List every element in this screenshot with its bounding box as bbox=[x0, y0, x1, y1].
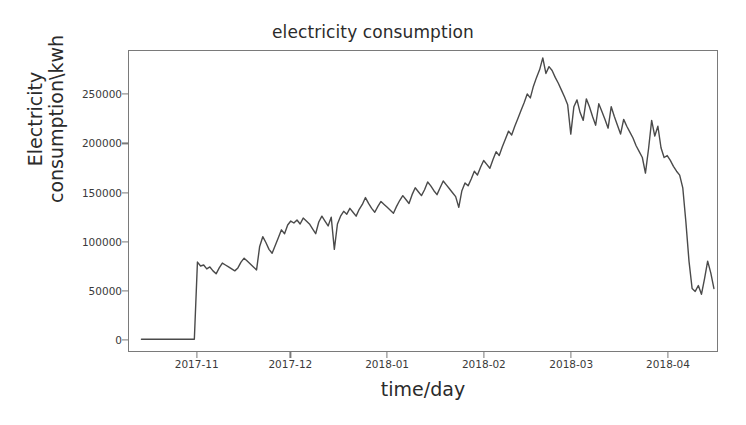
x-tick-label: 2018-04 bbox=[646, 358, 690, 370]
x-tick-label: 2018-03 bbox=[549, 358, 593, 370]
x-tick-mark bbox=[667, 352, 668, 358]
x-tick-mark bbox=[196, 352, 197, 358]
y-tick-label: 50000 bbox=[0, 285, 122, 297]
x-tick-label: 2018-01 bbox=[365, 358, 409, 370]
x-tick-label: 2017-12 bbox=[268, 358, 312, 370]
chart-title: electricity consumption bbox=[0, 22, 746, 42]
y-tick-label: 0 bbox=[0, 334, 122, 346]
y-axis-label-line-2: consumption\kwh bbox=[46, 35, 67, 203]
plot-area bbox=[128, 50, 718, 352]
x-tick-label: 2018-02 bbox=[462, 358, 506, 370]
y-tick-label: 250000 bbox=[0, 88, 122, 100]
x-axis-label: time/day bbox=[128, 378, 718, 400]
series-line-electricity-consumption bbox=[129, 51, 717, 351]
y-axis-label: Electricity consumption\kwh bbox=[23, 0, 69, 255]
y-tick-label: 150000 bbox=[0, 187, 122, 199]
x-tick-mark bbox=[571, 352, 572, 358]
figure-canvas: electricity consumption Electricity cons… bbox=[0, 0, 746, 425]
x-tick-mark bbox=[387, 352, 388, 358]
y-tick-label: 100000 bbox=[0, 236, 122, 248]
x-tick-label: 2017-11 bbox=[175, 358, 219, 370]
y-tick-label: 200000 bbox=[0, 137, 122, 149]
y-axis-label-line-1: Electricity bbox=[25, 72, 46, 166]
x-tick-mark bbox=[483, 352, 484, 358]
series-polyline bbox=[141, 58, 713, 339]
x-tick-mark bbox=[290, 352, 291, 358]
